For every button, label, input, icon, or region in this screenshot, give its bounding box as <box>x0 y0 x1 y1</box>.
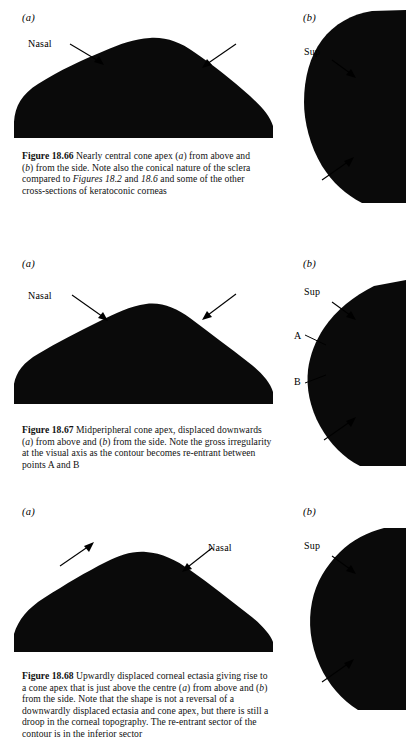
caption-number-2: Figure 18.67 <box>22 424 74 435</box>
caption-seg-2b: ) from above and ( <box>30 436 102 447</box>
caption-italic-3: Figures 18.2 <box>73 173 122 184</box>
panel-label-a-2: (a) <box>22 258 35 269</box>
caption-italic-4: 18.6 <box>141 173 158 184</box>
leader-arrow-temporal-2 <box>196 292 240 326</box>
annotation-sup-1: Sup <box>304 46 320 57</box>
leader-arrow-nasal-3 <box>176 546 216 578</box>
caption-18-66: Figure 18.66 Nearly central cone apex (a… <box>22 150 262 196</box>
leader-arrow-sup-1 <box>330 58 364 82</box>
caption-seg-1: Nearly central cone apex ( <box>74 150 179 161</box>
leader-line-point-b <box>304 372 330 386</box>
annotation-point-a: A <box>294 330 301 341</box>
annotation-sup-2: Sup <box>304 286 320 297</box>
panel-label-b-2: (b) <box>303 258 316 269</box>
caption-18-67: Figure 18.67 Midperipheral cone apex, di… <box>22 424 272 470</box>
annotation-nasal-2: Nasal <box>28 290 52 301</box>
leader-arrow-inferior-2 <box>322 416 362 444</box>
caption-18-68: Figure 18.68 Upwardly displaced corneal … <box>22 670 270 740</box>
leader-arrow-sup-2 <box>330 300 364 326</box>
leader-line-point-a <box>304 334 330 348</box>
annotation-point-b: B <box>294 376 301 387</box>
leader-arrow-sup-3 <box>330 554 364 580</box>
leader-arrow-inferior-1 <box>320 156 360 184</box>
panel-label-b-3: (b) <box>303 506 316 517</box>
caption-seg-4: and <box>122 173 141 184</box>
caption-seg-2c: ) from above and ( <box>187 682 259 693</box>
cornea-silhouette-above-3 <box>12 546 277 654</box>
leader-arrow-nasal-2 <box>70 292 118 326</box>
panel-label-a: (a) <box>22 12 35 23</box>
leader-arrow-temporal-1 <box>196 42 240 72</box>
annotation-nasal-1: Nasal <box>28 38 52 49</box>
figure-18-67: (a) Nasal (b) Sup <box>0 248 410 496</box>
caption-number-1: Figure 18.66 <box>22 150 74 161</box>
panel-label-a-3: (a) <box>22 506 35 517</box>
caption-number-3: Figure 18.68 <box>22 670 74 681</box>
leader-arrow-nasal-1 <box>68 40 112 68</box>
leader-arrow-temporal-3 <box>58 540 102 574</box>
figure-18-68: (a) Nasal (b) Sup <box>0 496 410 745</box>
figure-page: (a) Nasal (b) Sup <box>0 0 410 745</box>
figure-18-66: (a) Nasal (b) Sup <box>0 0 410 250</box>
annotation-sup-3: Sup <box>304 540 320 551</box>
leader-arrow-inferior-3 <box>320 658 360 686</box>
